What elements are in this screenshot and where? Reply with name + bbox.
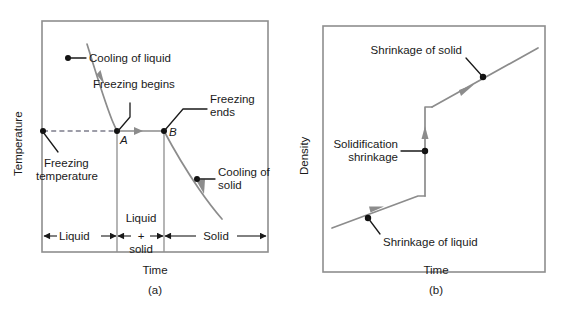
panel-a-freezing-ends-label-line2: ends — [210, 106, 235, 118]
panel-a-point-a-label: A — [119, 134, 128, 146]
panel-a-region-liquid-solid-label-line1: Liquid — [126, 212, 157, 224]
panel-b-shrinkage-of-solid-label: Shrinkage of solid — [371, 44, 462, 56]
panel-a-cooling-of-solid-curve — [164, 131, 222, 219]
panel-b-caption: (b) — [429, 284, 443, 296]
panel-a-freezing-begins-label: Freezing begins — [93, 78, 175, 90]
panel-a-region-liquid-label: Liquid — [59, 230, 90, 242]
panel-a-freezing-temperature-leader — [43, 132, 58, 152]
panel-a-point-b-label: B — [169, 126, 177, 138]
panel-b-shrinkage-of-solid-leader — [466, 58, 483, 77]
panel-a-freezing-temperature-label-line2: temperature — [36, 170, 98, 182]
panel-b: Density Time (b) Shrinkage of solid — [298, 26, 545, 296]
panel-b-shrinkage-of-liquid-label: Shrinkage of liquid — [383, 236, 478, 248]
panel-a-x-axis-title: Time — [142, 264, 167, 276]
panel-b-solidification-flow-arrow — [422, 126, 429, 139]
panel-a-plateau-flow-arrow — [134, 127, 143, 135]
panel-b-x-axis-title: Time — [423, 264, 448, 276]
panel-a: Temperature Time (a) — [12, 21, 271, 296]
panel-b-solidification-shrinkage-label-line2: shrinkage — [348, 151, 398, 163]
panel-a-cooling-of-solid-label-line1: Cooling of — [218, 166, 271, 178]
panel-b-solidification-shrinkage-label-line1: Solidification — [333, 138, 398, 150]
panel-a-caption: (a) — [148, 284, 162, 296]
panel-a-freezing-ends-label-line1: Freezing — [210, 93, 255, 105]
panel-a-region-liquid-solid-label-line2: + — [138, 230, 145, 242]
panel-a-y-axis-title: Temperature — [12, 111, 24, 176]
panel-a-region-liquid-solid-label-line3: solid — [129, 243, 153, 255]
panel-a-region-solid-label: Solid — [203, 230, 229, 242]
panel-a-freezing-temperature-label-line1: Freezing — [44, 157, 89, 169]
panel-b-shrinkage-of-liquid-segment — [332, 196, 425, 228]
figure-root: Temperature Time (a) — [0, 0, 573, 318]
panel-b-shrinkage-of-solid-flow-arrow — [459, 85, 474, 97]
panel-a-cooling-of-solid-label-line2: solid — [218, 179, 242, 191]
figure-canvas: Temperature Time (a) — [0, 0, 573, 318]
panel-b-shrinkage-of-liquid-leader — [368, 218, 380, 234]
panel-a-freezing-begins-leader — [118, 103, 130, 131]
panel-b-y-axis-title: Density — [298, 136, 310, 175]
panel-a-cooling-of-liquid-label: Cooling of liquid — [89, 52, 171, 64]
panel-a-freezing-temperature-axis-dot — [40, 128, 46, 134]
